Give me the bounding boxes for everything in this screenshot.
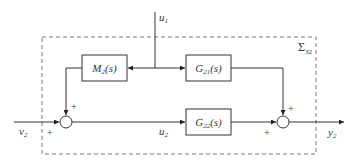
u2-label: u2 — [159, 125, 169, 139]
sum-left-left-sign: + — [47, 127, 53, 138]
block-diagram: Σ32 u1 M2(s) G21(s) + v2 + u2 G22(s) + +… — [0, 0, 358, 166]
v2-label: v2 — [19, 125, 28, 139]
sum-right-left-sign: + — [264, 127, 270, 138]
sum-left-junction — [60, 116, 72, 128]
sum-right-top-sign: + — [288, 103, 294, 114]
u1-label: u1 — [159, 11, 168, 25]
g21-to-sum-right-line — [231, 68, 283, 115]
y2-label: y2 — [327, 126, 337, 140]
sum-right-junction — [277, 116, 289, 128]
m2-block-label: M2(s) — [91, 62, 117, 76]
sum-left-top-sign: + — [71, 101, 77, 112]
subsystem-label: Σ32 — [298, 40, 312, 56]
